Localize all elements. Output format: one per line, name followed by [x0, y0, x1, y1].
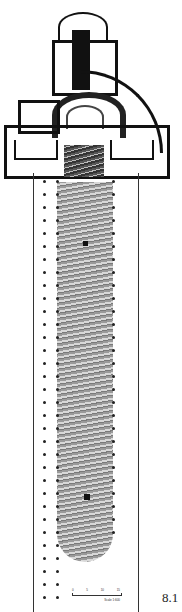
column-dot [56, 206, 59, 209]
scale-tick: 5 [86, 588, 88, 592]
column-dot [112, 362, 115, 365]
column-dot [112, 531, 115, 534]
column-dot [112, 245, 115, 248]
column-dot [43, 557, 46, 560]
column-dot [43, 206, 46, 209]
column-dot [56, 336, 59, 339]
column-dot [112, 414, 115, 417]
column-dot [43, 193, 46, 196]
enclosure-left-line [33, 173, 34, 612]
column-dot [43, 427, 46, 430]
column-dot [112, 518, 115, 521]
column-dot [43, 284, 46, 287]
column-dot [43, 518, 46, 521]
column-dot [43, 349, 46, 352]
column-dot [56, 297, 59, 300]
column-dot [56, 323, 59, 326]
figure-label: 8.1 [162, 590, 178, 606]
column-dot [56, 492, 59, 495]
column-dot [43, 596, 46, 599]
scale-caption: Scale 1:600 [72, 598, 120, 602]
column-dot [56, 427, 59, 430]
column-dot [43, 570, 46, 573]
column-dot [56, 544, 59, 547]
scale-bar: 0 5 10 15 Scale 1:600 [72, 588, 122, 602]
column-dot [112, 505, 115, 508]
column-dot [43, 492, 46, 495]
column-dot [43, 297, 46, 300]
column-dot [56, 258, 59, 261]
column-dot [112, 492, 115, 495]
column-dot [56, 401, 59, 404]
arena-oval [57, 182, 113, 562]
column-dot [43, 583, 46, 586]
column-dot [112, 323, 115, 326]
column-dot [43, 180, 46, 183]
central-pool [64, 145, 104, 177]
column-dot [112, 453, 115, 456]
column-dot [112, 440, 115, 443]
column-dot [112, 193, 115, 196]
column-dot [56, 466, 59, 469]
left-rooms [14, 140, 58, 160]
column-dot [112, 284, 115, 287]
column-dot [112, 271, 115, 274]
column-dot [56, 245, 59, 248]
column-dot [56, 375, 59, 378]
column-dot [112, 258, 115, 261]
column-dot [112, 479, 115, 482]
column-dot [56, 440, 59, 443]
scale-tick: 0 [72, 588, 74, 592]
column-dot [43, 479, 46, 482]
column-dot [56, 284, 59, 287]
column-dot [112, 375, 115, 378]
column-dot [112, 219, 115, 222]
column-dot [112, 232, 115, 235]
column-dot [56, 596, 59, 599]
column-dot [43, 258, 46, 261]
column-dot [43, 453, 46, 456]
column-dot [56, 362, 59, 365]
right-rooms [110, 140, 154, 160]
column-dot [56, 232, 59, 235]
arena-marker-lower [84, 494, 90, 500]
column-dot [56, 453, 59, 456]
column-dot [112, 388, 115, 391]
column-dot [43, 323, 46, 326]
column-dot [43, 440, 46, 443]
column-dot [43, 414, 46, 417]
column-dot [112, 401, 115, 404]
column-dot [43, 336, 46, 339]
column-dot [56, 505, 59, 508]
column-dot [43, 310, 46, 313]
column-dot [112, 336, 115, 339]
column-dot [56, 531, 59, 534]
column-dot [43, 362, 46, 365]
column-dot [56, 219, 59, 222]
column-dot [56, 349, 59, 352]
column-dot [43, 219, 46, 222]
column-dot [112, 466, 115, 469]
column-dot [43, 271, 46, 274]
column-dot [43, 232, 46, 235]
column-dot [112, 349, 115, 352]
column-dot [56, 180, 59, 183]
column-dot [43, 388, 46, 391]
column-dot [43, 544, 46, 547]
column-dot [43, 375, 46, 378]
scale-tick: 15 [117, 588, 120, 592]
column-dot [56, 583, 59, 586]
column-dot [43, 401, 46, 404]
column-dot [56, 518, 59, 521]
column-dot [43, 531, 46, 534]
column-dot [112, 180, 115, 183]
column-dot [56, 414, 59, 417]
column-dot [43, 466, 46, 469]
column-dot [112, 310, 115, 313]
scale-tick: 10 [101, 588, 104, 592]
column-dot [56, 388, 59, 391]
column-dot [56, 570, 59, 573]
column-dot [56, 557, 59, 560]
column-dot [112, 297, 115, 300]
column-dot [112, 206, 115, 209]
